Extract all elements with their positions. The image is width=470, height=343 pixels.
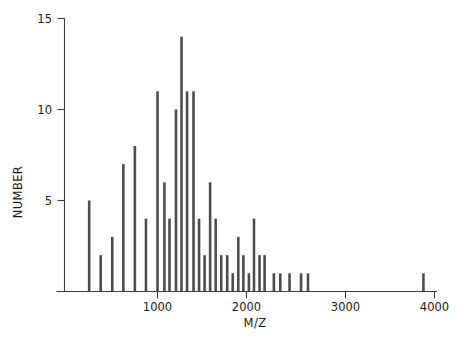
histogram-plot: 15 10 5 1000 2000 3000 4000 M/Z NUMBER [0,0,470,343]
y-tick-label-15: 15 [37,12,52,26]
x-tick-label-2000: 2000 [232,300,261,314]
x-axis-title: M/Z [244,316,267,330]
chart-figure: 15 10 5 1000 2000 3000 4000 M/Z NUMBER [0,0,470,343]
y-axis-title: NUMBER [11,166,25,219]
bar-series [89,37,423,292]
y-tick-label-5: 5 [45,194,52,208]
x-tick-label-1000: 1000 [143,300,172,314]
x-tick-label-4000: 4000 [420,300,449,314]
y-tick-label-10: 10 [37,103,52,117]
x-tick-label-3000: 3000 [331,300,360,314]
